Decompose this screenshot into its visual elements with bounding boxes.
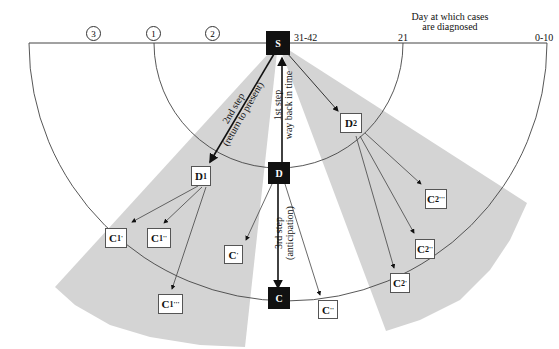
tick-0-10: 0-10 <box>535 33 553 43</box>
node-c-double-prime: C'' <box>318 300 338 319</box>
generation-circle-3: 3 <box>86 26 101 41</box>
step1-label: 1st step way back in time <box>272 60 294 150</box>
node-c2-prime: C2' <box>390 273 410 293</box>
tick-31-42: 31-42 <box>294 33 317 43</box>
node-c1-prime: C1' <box>105 228 127 248</box>
node-s: S <box>266 31 290 55</box>
node-c2-triple-prime: C2''' <box>425 189 447 209</box>
node-d: D <box>268 162 290 184</box>
axis-title: Day at which cases are diagnosed <box>400 12 500 32</box>
node-d1: D1 <box>191 166 211 186</box>
node-c2-double-prime: C2'' <box>415 239 435 259</box>
node-d2: D2 <box>340 113 362 133</box>
node-c: C <box>268 287 290 309</box>
contact-tracing-diagram: Day at which cases are diagnosed 31-42 2… <box>0 0 559 349</box>
tick-21: 21 <box>398 33 408 43</box>
axis-title-line2: are diagnosed <box>400 22 500 32</box>
node-c1-triple-prime: C1''' <box>158 294 183 314</box>
node-c-prime: C' <box>224 245 243 264</box>
node-c1-double-prime: C1'' <box>147 228 171 248</box>
generation-circle-2: 2 <box>205 26 220 41</box>
step3-label: 3rd step (anticipation) <box>273 193 295 273</box>
generation-circle-1: 1 <box>146 26 161 41</box>
